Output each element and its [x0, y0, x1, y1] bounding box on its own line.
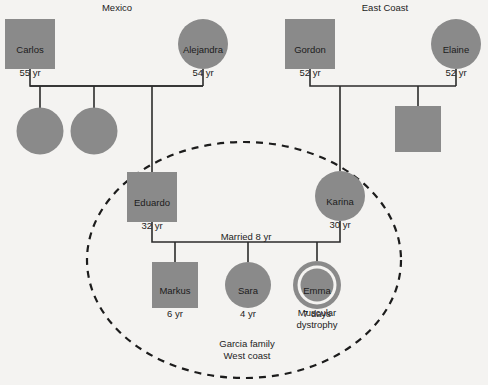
- link-gordon-to-sibline: [310, 69, 456, 86]
- person-node-elaine[interactable]: [431, 19, 481, 69]
- genogram-graphics: .ln { stroke: #2b2b2b; stroke-width: 1.6…: [0, 0, 488, 385]
- person-node-sibling-mexico-2[interactable]: [71, 108, 118, 155]
- person-node-carlos[interactable]: [5, 19, 55, 69]
- person-node-sibling-mexico-1[interactable]: [17, 108, 64, 155]
- person-node-eduardo[interactable]: [127, 172, 177, 222]
- person-node-sibling-east-coast-1[interactable]: [395, 106, 441, 152]
- person-node-karina[interactable]: [315, 171, 365, 221]
- household-label: Garcia family West coast: [197, 338, 297, 361]
- marriage-duration-label: Married 8 yr: [206, 231, 286, 243]
- person-node-alejandra[interactable]: [178, 19, 228, 69]
- link-carlos-to-sibline: [30, 69, 203, 86]
- region-label-east-coast: East Coast: [345, 2, 425, 14]
- person-node-emma[interactable]: [293, 261, 341, 309]
- person-node-sara[interactable]: [225, 262, 271, 308]
- genogram-canvas: .ln { stroke: #2b2b2b; stroke-width: 1.6…: [0, 0, 488, 385]
- person-node-gordon[interactable]: [285, 19, 335, 69]
- person-node-markus[interactable]: [152, 262, 198, 308]
- region-label-mexico: Mexico: [77, 2, 157, 14]
- emma-condition-label: Muscular dystrophy: [277, 307, 357, 330]
